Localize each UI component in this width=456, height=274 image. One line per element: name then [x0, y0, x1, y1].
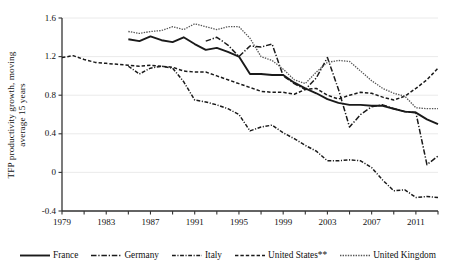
y-tick-label-2: 0.8 — [22, 91, 56, 100]
legend-swatch-0 — [20, 252, 50, 259]
legend-label-2: Italy — [205, 250, 222, 260]
plot-area — [62, 18, 438, 211]
line-chart-svg — [62, 18, 438, 211]
y-axis-label-line1: TFP productivity growth, moving — [6, 52, 16, 179]
legend-swatch-2 — [172, 252, 202, 259]
legend-item-united-states[interactable]: United States** — [235, 250, 327, 260]
x-tick-label-0: 1979 — [42, 218, 82, 227]
legend-swatch-3 — [235, 252, 265, 259]
x-tick-label-7: 2007 — [352, 218, 392, 227]
legend-item-united-kingdom[interactable]: United Kingdom — [340, 250, 436, 260]
legend-item-france[interactable]: France — [20, 250, 78, 260]
y-tick-label-4: 0 — [22, 168, 56, 177]
legend-item-germany[interactable]: Germany — [91, 250, 159, 260]
series-line-italy — [128, 66, 438, 197]
y-tick-label-1: 1.2 — [22, 52, 56, 61]
legend-swatch-1 — [91, 252, 121, 259]
chart-legend: FranceGermanyItalyUnited States**United … — [0, 250, 456, 260]
series-line-united-kingdom — [128, 24, 438, 109]
legend-label-0: France — [53, 250, 78, 260]
series-line-france — [128, 36, 438, 124]
x-tick-label-5: 1999 — [263, 218, 303, 227]
x-tick-label-6: 2003 — [307, 218, 347, 227]
legend-label-4: United Kingdom — [373, 250, 436, 260]
x-tick-label-4: 1995 — [219, 218, 259, 227]
y-tick-label-0: 1.6 — [22, 14, 56, 23]
x-tick-label-8: 2011 — [396, 218, 436, 227]
series-line-united-states — [62, 56, 438, 100]
legend-label-3: United States** — [268, 250, 327, 260]
y-tick-label-3: 0.4 — [22, 129, 56, 138]
x-tick-label-3: 1991 — [175, 218, 215, 227]
legend-item-italy[interactable]: Italy — [172, 250, 222, 260]
legend-swatch-4 — [340, 252, 370, 259]
x-tick-label-1: 1983 — [86, 218, 126, 227]
y-axis-label: TFP productivity growth, moving average … — [6, 20, 28, 210]
chart-figure: TFP productivity growth, moving average … — [0, 0, 456, 274]
legend-label-1: Germany — [124, 250, 159, 260]
y-tick-label-5: -0.4 — [22, 207, 56, 216]
data-series-lines — [62, 24, 438, 198]
x-tick-label-2: 1987 — [130, 218, 170, 227]
